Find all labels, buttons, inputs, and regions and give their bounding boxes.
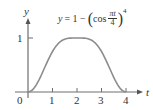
formula-exponent: 4 [123, 7, 127, 15]
x-ticks [53, 88, 127, 92]
x-tick-label-2: 2 [74, 95, 80, 106]
y-axis-arrow-icon [26, 18, 31, 24]
formula-func: cos [93, 13, 106, 24]
x-tick-label-0: 0 [17, 95, 23, 106]
formula-eq: = 1 − [64, 13, 85, 24]
y-axis-label: y [24, 6, 29, 17]
x-tick-label-3: 3 [98, 95, 104, 106]
x-tick-label-1: 1 [49, 95, 55, 106]
formula-fraction: πt 4 [108, 10, 116, 27]
y-tick-label-1: 1 [17, 33, 23, 44]
x-axis-label: t [146, 87, 149, 98]
x-tick-label-4: 4 [123, 95, 129, 106]
formula-denominator: 4 [111, 19, 115, 27]
formula-lhs: y [58, 13, 62, 24]
curve-formula: y = 1 − ( cos πt 4 ) 4 [58, 10, 126, 27]
x-axis-arrow-icon [137, 90, 143, 95]
curve-series [28, 38, 126, 92]
